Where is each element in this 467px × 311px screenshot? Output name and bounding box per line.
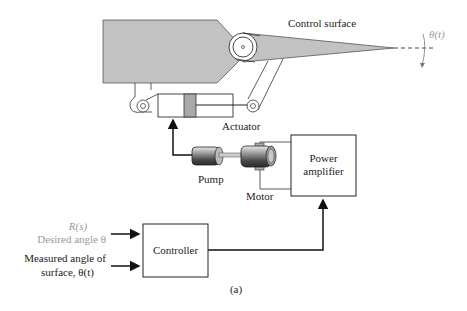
pump	[192, 147, 241, 165]
motor	[241, 142, 291, 189]
actuator-label: Actuator	[222, 120, 261, 132]
control-surface-linkage	[247, 59, 283, 112]
measured-angle-label-line2: surface, θ(t)	[41, 266, 94, 279]
controller-label: Controller	[153, 244, 199, 256]
control-surface-diagram: θ(t) Control surface Actuator Pump	[0, 0, 467, 311]
reference-symbol-label: R(s)	[68, 220, 88, 233]
control-surface-label: Control surface	[288, 17, 356, 29]
pump-label: Pump	[198, 173, 224, 185]
power-amplifier-label-line2: amplifier	[303, 165, 344, 177]
motor-label: Motor	[246, 190, 274, 202]
measured-angle-label-line1: Measured angle of	[24, 252, 106, 264]
power-amplifier-label-line1: Power	[309, 152, 337, 164]
figure-caption: (a)	[230, 283, 243, 296]
wing-body	[103, 20, 240, 83]
actuator-mount-left	[130, 83, 158, 112]
actuator	[158, 94, 252, 117]
controller-to-amplifier-arrow	[208, 200, 323, 250]
theta-label: θ(t)	[429, 28, 445, 41]
control-surface	[229, 33, 394, 62]
desired-angle-label: Desired angle θ	[37, 233, 106, 245]
angle-reference	[394, 34, 434, 68]
pump-to-actuator-arrow	[173, 120, 192, 155]
